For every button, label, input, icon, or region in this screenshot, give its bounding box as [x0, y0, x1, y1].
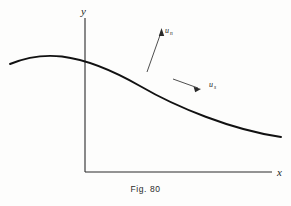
normal-velocity-vector: u n [147, 26, 173, 72]
tangential-velocity-vector: u s [173, 79, 216, 92]
normal-vector-label-subscript: n [170, 30, 173, 36]
surface-profile-curve [10, 56, 281, 137]
tangential-vector-label-subscript: s [214, 84, 216, 90]
figure-caption: Fig. 80 [0, 184, 291, 194]
normal-vector-shaft [147, 31, 162, 72]
tangential-vector-shaft [173, 79, 198, 88]
normal-vector-label: u [165, 26, 169, 35]
y-axis-label: y [80, 5, 86, 17]
figure-page: y x u n u s Fig. 80 [0, 0, 291, 206]
x-axis-label: x [276, 166, 282, 178]
tangential-vector-label: u [209, 80, 213, 89]
figure-diagram: y x u n u s [0, 0, 291, 206]
normal-vector-arrowhead [159, 28, 164, 36]
